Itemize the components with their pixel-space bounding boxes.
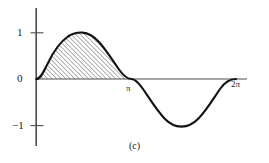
y-axis-label-neg1: −1: [12, 120, 24, 131]
sine-plot: [0, 0, 269, 163]
x-axis-label-2pi: 2π: [231, 80, 240, 89]
y-axis-label-0: 0: [17, 73, 23, 84]
y-axis-label-1: 1: [17, 27, 23, 38]
figure-container: 1 0 −1 π 2π (c): [0, 0, 269, 163]
figure-caption: (c): [0, 140, 269, 151]
x-axis-label-pi: π: [126, 84, 131, 93]
